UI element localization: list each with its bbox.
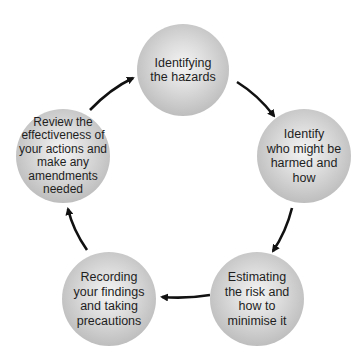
node-label: Estimating the risk and how to minimise … [225, 270, 290, 328]
arrow-who-to-estimate [273, 208, 292, 251]
node-recording-findings: Recording your findings and taking preca… [62, 252, 156, 346]
arrow-review-to-hazards [90, 78, 133, 110]
node-identifying-hazards: Identifying the hazards [137, 24, 229, 116]
node-label: Review the effectiveness of your actions… [19, 116, 107, 197]
node-label: Recording your findings and taking preca… [74, 270, 145, 328]
arrow-record-to-review [68, 209, 87, 250]
node-identify-who-harmed: Identify who might be harmed and how [257, 109, 351, 203]
arrow-estimate-to-record [162, 295, 210, 298]
node-label: Identifying the hazards [150, 56, 215, 85]
arrow-hazards-to-who [237, 82, 274, 116]
node-estimating-risk: Estimating the risk and how to minimise … [210, 252, 304, 346]
node-review-effectiveness: Review the effectiveness of your actions… [16, 109, 110, 203]
node-label: Identify who might be harmed and how [267, 127, 341, 185]
